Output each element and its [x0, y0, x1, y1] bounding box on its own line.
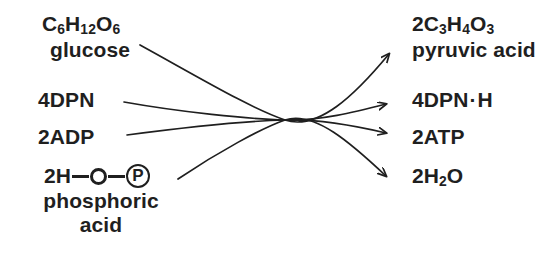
product-pyruvic-acid-name: pyruvic acid [412, 38, 536, 62]
reaction-diagram: C6H12O6 glucose 4DPN 2ADP 2H P phosphori… [0, 0, 560, 264]
oxygen-circle-icon [90, 168, 107, 185]
reactant-adp: 2ADP [38, 125, 94, 149]
middot-icon: · [468, 88, 477, 111]
reactant-glucose: C6H12O6 glucose [42, 12, 130, 61]
phosphoric-acid-name-line1: phosphoric [24, 189, 184, 213]
reactant-phosphoric-acid: 2H P phosphoric acid [24, 163, 184, 236]
arrow-glucose-to-pyruvic [140, 45, 389, 122]
bond-line-icon [72, 175, 89, 178]
phosphoric-acid-formula: 2H P [24, 163, 184, 189]
bond-line-icon [108, 175, 125, 178]
reactant-glucose-formula: C6H12O6 [42, 12, 120, 35]
product-pyruvic-acid: 2C3H4O3 pyruvic acid [412, 12, 536, 61]
product-dpn-h-suffix: H [478, 88, 493, 111]
arrow-phosphoric-to-water [178, 118, 386, 179]
product-dpn-h-prefix: 4DPN [412, 88, 468, 111]
phosphoric-acid-hydrogen: 2H [44, 164, 71, 188]
product-water: 2H2O [412, 164, 463, 190]
product-pyruvic-acid-formula: 2C3H4O3 [412, 12, 494, 35]
product-atp: 2ATP [412, 125, 465, 149]
phosphate-circle-icon: P [126, 164, 150, 188]
arrow-adp-to-atp [127, 120, 386, 135]
arrow-dpn-to-dpnh [124, 102, 386, 120]
phosphoric-acid-name-line2: acid [24, 213, 184, 237]
reactant-glucose-name: glucose [42, 38, 130, 62]
reactant-dpn: 4DPN [38, 88, 94, 112]
product-dpn-h: 4DPN·H [412, 88, 493, 112]
